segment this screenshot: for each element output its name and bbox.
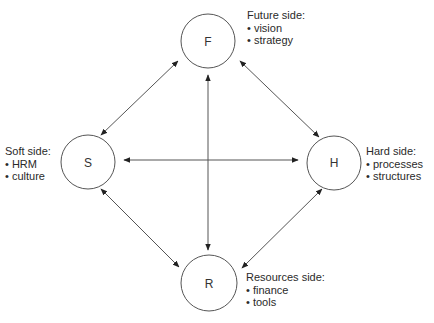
label-title: Future side: — [247, 9, 305, 22]
label-resources-side: Resources side: finance tools — [246, 271, 325, 309]
label-item: strategy — [247, 34, 305, 47]
label-item: finance — [246, 284, 325, 297]
edge-s-r — [101, 189, 179, 267]
edge-h-r — [242, 189, 322, 268]
label-item: HRM — [5, 158, 51, 171]
label-item: processes — [366, 158, 423, 171]
label-title: Hard side: — [366, 145, 423, 158]
label-item: structures — [366, 170, 423, 183]
label-soft-side: Soft side: HRM culture — [5, 145, 51, 183]
node-letter-h: H — [330, 157, 339, 169]
node-letter-s: S — [84, 157, 92, 169]
label-item: culture — [5, 170, 51, 183]
label-title: Resources side: — [246, 271, 325, 284]
node-letter-f: F — [204, 36, 211, 48]
label-hard-side: Hard side: processes structures — [366, 145, 423, 183]
edge-s-f — [101, 61, 178, 135]
edge-f-h — [240, 61, 319, 137]
label-item: vision — [247, 22, 305, 35]
label-future-side: Future side: vision strategy — [247, 9, 305, 47]
label-title: Soft side: — [5, 145, 51, 158]
node-letter-r: R — [205, 278, 214, 290]
label-item: tools — [246, 296, 325, 309]
